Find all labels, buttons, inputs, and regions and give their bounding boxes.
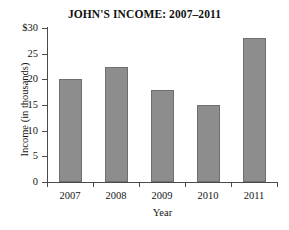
x-axis-line <box>47 182 278 183</box>
x-axis-tick <box>47 182 48 187</box>
x-axis-tick-label: 2011 <box>231 190 277 201</box>
x-axis-tick <box>185 182 186 187</box>
plot-area <box>47 28 277 182</box>
y-axis-tick-label: 15 <box>28 100 39 110</box>
bar-2007 <box>59 79 82 182</box>
y-axis-tick-label: 25 <box>28 49 39 59</box>
x-axis-tick <box>231 182 232 187</box>
bar-2008 <box>105 67 128 183</box>
x-axis-tick-label: 2009 <box>139 190 185 201</box>
x-axis-tick-label: 2008 <box>93 190 139 201</box>
y-axis-tick-label: 20 <box>28 74 39 84</box>
bar-2009 <box>151 90 174 182</box>
x-axis-tick <box>139 182 140 187</box>
x-axis-tick-label: 2007 <box>47 190 93 201</box>
x-axis-tick-label: 2010 <box>185 190 231 201</box>
bar-2011 <box>243 38 266 182</box>
x-axis-tick <box>93 182 94 187</box>
y-axis-tick-label: $30 <box>22 23 38 33</box>
y-axis-tick-label: 10 <box>28 126 39 136</box>
chart-screenshot: JOHN'S INCOME: 2007–2011 Income (in thou… <box>0 0 289 230</box>
x-axis-title: Year <box>47 207 278 218</box>
x-axis-tick <box>277 182 278 187</box>
y-axis-tick-label: 5 <box>33 151 38 161</box>
chart-title: JOHN'S INCOME: 2007–2011 <box>0 8 289 20</box>
y-axis-tick-label: 0 <box>33 177 38 187</box>
bar-2010 <box>197 105 220 182</box>
